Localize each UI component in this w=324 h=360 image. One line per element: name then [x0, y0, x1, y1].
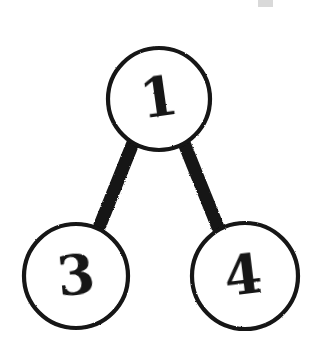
scan-speck-artifact	[258, 0, 273, 7]
graph-svg: 1 3 4	[0, 0, 324, 360]
node-3[interactable]: 3	[24, 224, 128, 328]
diagram-canvas: 1 3 4	[0, 0, 324, 360]
node-1[interactable]: 1	[108, 48, 210, 150]
node-4[interactable]: 4	[192, 223, 298, 329]
node-4-label: 4	[220, 241, 265, 309]
node-3-label: 3	[54, 241, 98, 309]
